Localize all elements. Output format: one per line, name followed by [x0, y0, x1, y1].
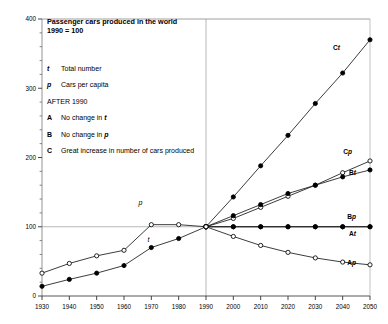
- datapoint-Ct-2030: [313, 101, 317, 105]
- datapoint-Ct-2000: [231, 195, 235, 199]
- chart-svg: 0100200300400193019401950196019701980199…: [0, 0, 388, 324]
- datapoint-p-1950: [95, 254, 99, 258]
- x-tick-label-1950: 1950: [90, 303, 105, 310]
- y-tick-label-300: 300: [25, 85, 36, 92]
- x-tick-label-1990: 1990: [199, 303, 214, 310]
- x-tick-label-2000: 2000: [226, 303, 241, 310]
- datapoint-Bt-2010: [259, 202, 263, 206]
- datapoint-t-1960: [122, 263, 126, 267]
- x-tick-label-2030: 2030: [308, 303, 323, 310]
- datapoint-Bt-2030: [313, 183, 317, 187]
- x-tick-label-2050: 2050: [363, 303, 378, 310]
- datapoint-t-1940: [67, 277, 71, 281]
- grid-layer: [42, 19, 370, 296]
- datapoint-Cp-2040: [341, 171, 345, 175]
- datapoint-At-2020: [286, 225, 290, 229]
- curve-label-Ct: Ct: [333, 44, 341, 51]
- datapoint-Ap-2000: [231, 234, 235, 238]
- datapoint-t-1930: [40, 284, 44, 288]
- datapoint-Ap-2050: [368, 263, 372, 267]
- datapoint-Ct-2020: [286, 133, 290, 137]
- datapoint-Bt-2020: [286, 191, 290, 195]
- datapoint-p-1980: [177, 223, 181, 227]
- curve-label-Cp: Cp: [343, 148, 352, 156]
- datapoint-Ap-2020: [286, 250, 290, 254]
- datapoint-p-1930: [40, 271, 44, 275]
- x-tick-label-2040: 2040: [336, 303, 351, 310]
- datapoint-t-1950: [95, 271, 99, 275]
- datapoint-At-2040: [341, 225, 345, 229]
- x-tick-label-2020: 2020: [281, 303, 296, 310]
- datapoint-t-1980: [177, 236, 181, 240]
- y-tick-label-0: 0: [32, 292, 36, 299]
- datapoint-Ct-2010: [259, 164, 263, 168]
- inline-label-p: p: [137, 199, 142, 207]
- datapoint-Cp-2050: [368, 159, 372, 163]
- axis-layer: 0100200300400193019401950196019701980199…: [25, 15, 377, 310]
- series-line-t: [42, 227, 206, 287]
- datapoint-At-2050: [368, 225, 372, 229]
- x-tick-label-1970: 1970: [144, 303, 159, 310]
- label-layer: CtCpBtBpAtAppt: [137, 44, 356, 267]
- datapoint-Bt-2040: [341, 175, 345, 179]
- curve-label-Ap: Ap: [347, 259, 356, 267]
- y-tick-label-400: 400: [25, 15, 36, 22]
- datapoint-Ap-2030: [313, 256, 317, 260]
- x-tick-label-1960: 1960: [117, 303, 132, 310]
- datapoint-At-2010: [259, 225, 263, 229]
- datapoint-Ct-2040: [341, 71, 345, 75]
- y-tick-label-100: 100: [25, 223, 36, 230]
- datapoint-At-2000: [231, 225, 235, 229]
- curve-label-Bp: Bp: [347, 213, 356, 221]
- x-tick-label-2010: 2010: [254, 303, 269, 310]
- datapoint-p-1940: [67, 261, 71, 265]
- datapoint-p-1970: [149, 223, 153, 227]
- datapoint-Bt-2000: [231, 214, 235, 218]
- series-line-Ap: [206, 227, 370, 265]
- datapoint-Ap-2010: [259, 243, 263, 247]
- datapoint-Ct-2050: [368, 38, 372, 42]
- y-tick-label-200: 200: [25, 154, 36, 161]
- x-tick-label-1930: 1930: [35, 303, 50, 310]
- inline-label-t: t: [148, 236, 151, 243]
- datapoint-p-1960: [122, 248, 126, 252]
- curve-label-Bt: Bt: [349, 169, 357, 176]
- chart-figure: 0100200300400193019401950196019701980199…: [0, 0, 388, 324]
- datapoint-Ap-2040: [341, 260, 345, 264]
- x-tick-label-1980: 1980: [172, 303, 187, 310]
- curve-label-At: At: [349, 230, 357, 237]
- datapoint-At-2030: [313, 225, 317, 229]
- datapoint-t-1970: [149, 245, 153, 249]
- x-tick-label-1940: 1940: [62, 303, 77, 310]
- datapoint-Ap-1990: [204, 225, 208, 229]
- datapoint-Bt-2050: [368, 168, 372, 172]
